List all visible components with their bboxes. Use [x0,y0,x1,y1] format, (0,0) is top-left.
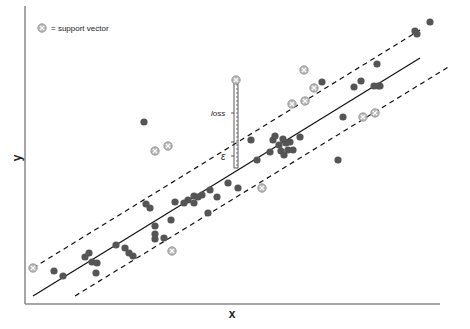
data-point [234,184,241,191]
data-point [93,259,100,266]
data-point [376,82,383,89]
support-vector [371,109,379,117]
svr-diagram: x y = support vector loss ε [0,0,470,329]
data-point [266,148,273,155]
data-point [171,198,178,205]
data-point [92,269,99,276]
data-point [146,204,153,211]
support-vector [258,184,266,192]
support-vector-points [29,66,379,272]
loss-label: loss [211,109,225,118]
data-point [289,146,296,153]
data-point [190,199,197,206]
data-point [129,252,136,259]
data-point [59,272,66,279]
data-point [296,133,303,140]
data-point [247,136,254,143]
data-point [357,77,364,84]
legend: = support vector [38,24,109,33]
data-point [253,156,260,163]
data-point [160,234,167,241]
support-vector [310,84,318,92]
data-point [271,132,278,139]
support-vector [164,142,172,150]
support-vector [301,97,309,105]
legend-label: = support vector [51,24,109,33]
loss-indicator [231,80,238,168]
lower-margin-line [75,66,450,296]
data-point [213,193,220,200]
data-point [318,78,325,85]
data-point [426,18,433,25]
data-point [286,138,293,145]
support-vector [232,76,240,84]
data-point [334,156,341,163]
data-point [112,241,119,248]
data-point [224,179,231,186]
support-vector-icon [38,24,46,32]
support-vector [29,264,37,272]
data-point [50,267,57,274]
data-point [140,118,147,125]
y-axis-label: y [10,154,24,161]
data-point [373,60,380,67]
data-point [339,113,346,120]
data-point [167,216,174,223]
support-vector [151,147,159,155]
support-vector [168,247,176,255]
epsilon-label: ε [221,151,226,162]
regression-lines [33,30,450,296]
data-point [206,186,213,193]
chart-canvas: x y = support vector loss ε [0,0,470,329]
data-point [413,30,420,37]
x-axis-label: x [229,307,236,321]
data-point [151,235,158,242]
data-point [204,209,211,216]
support-vector [359,113,367,121]
upper-margin-line [33,30,420,268]
data-point [350,83,357,90]
support-vector [288,100,296,108]
data-point [85,249,92,256]
support-vector [38,24,46,32]
data-point [151,222,158,229]
data-point [198,191,205,198]
data-points [50,18,433,279]
support-vector [300,66,308,74]
